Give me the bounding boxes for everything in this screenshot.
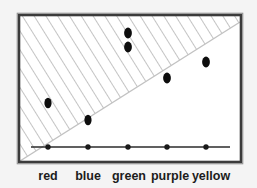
tick-label-purple: purple <box>151 169 189 183</box>
tick-label-blue: blue <box>75 169 101 183</box>
tick-label-red: red <box>38 169 57 183</box>
marker-yellow <box>202 57 210 68</box>
baseline-dot-blue <box>85 144 90 149</box>
marker-blue <box>84 115 91 125</box>
chart-canvas: red blue green purple yellow <box>0 0 257 188</box>
marker-purple <box>163 73 171 84</box>
marker-red <box>44 98 51 108</box>
baseline-dot-yellow <box>203 144 208 149</box>
scatter-chart: red blue green purple yellow <box>0 0 257 188</box>
tick-label-yellow: yellow <box>192 169 230 183</box>
baseline-dot-red <box>45 144 50 149</box>
baseline-dot-green <box>125 144 130 149</box>
marker-green-1 <box>124 28 132 39</box>
marker-green-2 <box>124 42 132 53</box>
tick-label-green: green <box>112 169 146 183</box>
baseline-dot-purple <box>164 144 169 149</box>
